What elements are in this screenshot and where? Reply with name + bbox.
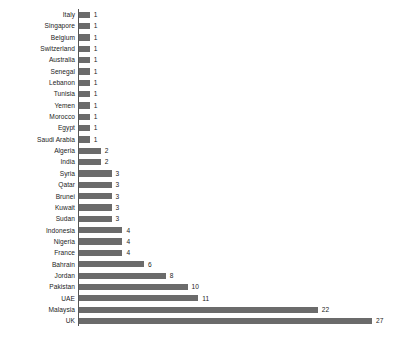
bar [79,250,122,256]
plot-area: Italy1Singapore1Belgium1Switzerland1Aust… [0,0,399,339]
bar-value-label: 11 [202,293,209,304]
bar-value-label: 4 [126,247,130,258]
bar-row: Morocco1 [0,111,399,122]
bar-value-label: 3 [116,168,120,179]
bar-row: Sudan3 [0,213,399,224]
bar-value-label: 3 [116,191,120,202]
bar [79,102,90,108]
bar-value-label: 22 [322,304,329,315]
bar-value-label: 1 [94,9,98,20]
bar-row: Syria3 [0,168,399,179]
category-label: Australia [2,54,78,65]
bar [79,91,90,97]
category-label: Belgium [2,32,78,43]
bar [79,80,90,86]
bar [79,68,90,74]
bar-row: Qatar3 [0,179,399,190]
bar [79,159,101,165]
bar-row: Brunei3 [0,191,399,202]
category-label: Senegal [2,66,78,77]
category-label: Bahrain [2,259,78,270]
bar-row: Senegal1 [0,66,399,77]
bar-value-label: 10 [192,281,199,292]
category-label: Malaysia [2,304,78,315]
category-label: Yemen [2,100,78,111]
bar-value-label: 1 [94,43,98,54]
bar-value-label: 1 [94,122,98,133]
category-label: Egypt [2,122,78,133]
bar [79,12,90,18]
category-label: Saudi Arabia [2,134,78,145]
bar-value-label: 4 [126,225,130,236]
category-label: India [2,156,78,167]
bar-row: Italy1 [0,9,399,20]
category-label: Indonesia [2,225,78,236]
bar [79,307,318,313]
category-label: Pakistan [2,281,78,292]
bar-value-label: 1 [94,20,98,31]
category-label: UK [2,315,78,326]
bar-value-label: 1 [94,111,98,122]
bar [79,125,90,131]
bar-row: Pakistan10 [0,281,399,292]
bar [79,46,90,52]
bar [79,182,112,188]
bar-row: France4 [0,247,399,258]
bar-value-label: 3 [116,202,120,213]
bar-value-label: 27 [376,315,383,326]
bar-row: Jordan8 [0,270,399,281]
bar-row: Malaysia22 [0,304,399,315]
bar [79,273,166,279]
category-label: Algeria [2,145,78,156]
category-label: Sudan [2,213,78,224]
bar-row: UK27 [0,315,399,326]
bar [79,216,112,222]
bar-value-label: 4 [126,236,130,247]
category-label: Brunei [2,191,78,202]
category-label: France [2,247,78,258]
bar-row: Nigeria4 [0,236,399,247]
bar-row: India2 [0,156,399,167]
bar [79,170,112,176]
bar-value-label: 3 [116,213,120,224]
bar-row: Singapore1 [0,20,399,31]
category-label: Kuwait [2,202,78,213]
bar-row: Belgium1 [0,32,399,43]
category-label: Tunisia [2,88,78,99]
bar-value-label: 6 [148,259,152,270]
bar-row: Egypt1 [0,122,399,133]
category-label: UAE [2,293,78,304]
bar [79,114,90,120]
bar [79,284,188,290]
bar-row: UAE11 [0,293,399,304]
bar [79,34,90,40]
bar-value-label: 3 [116,179,120,190]
bar [79,295,198,301]
bar-value-label: 1 [94,88,98,99]
bar-row: Switzerland1 [0,43,399,54]
bar [79,238,122,244]
bar [79,148,101,154]
bar [79,227,122,233]
bar-value-label: 2 [105,156,109,167]
category-label: Lebanon [2,77,78,88]
bar-value-label: 1 [94,32,98,43]
category-label: Morocco [2,111,78,122]
bar [79,193,112,199]
bar-row: Tunisia1 [0,88,399,99]
bar [79,57,90,63]
category-label: Nigeria [2,236,78,247]
bar-value-label: 2 [105,145,109,156]
bar-row: Algeria2 [0,145,399,156]
category-label: Italy [2,9,78,20]
bar-chart: Italy1Singapore1Belgium1Switzerland1Aust… [0,0,399,339]
bar-value-label: 1 [94,54,98,65]
bar [79,136,90,142]
bar-value-label: 1 [94,77,98,88]
bar-rows: Italy1Singapore1Belgium1Switzerland1Aust… [0,9,399,327]
category-label: Qatar [2,179,78,190]
category-label: Switzerland [2,43,78,54]
bar [79,261,144,267]
bar-row: Yemen1 [0,100,399,111]
bar [79,318,372,324]
